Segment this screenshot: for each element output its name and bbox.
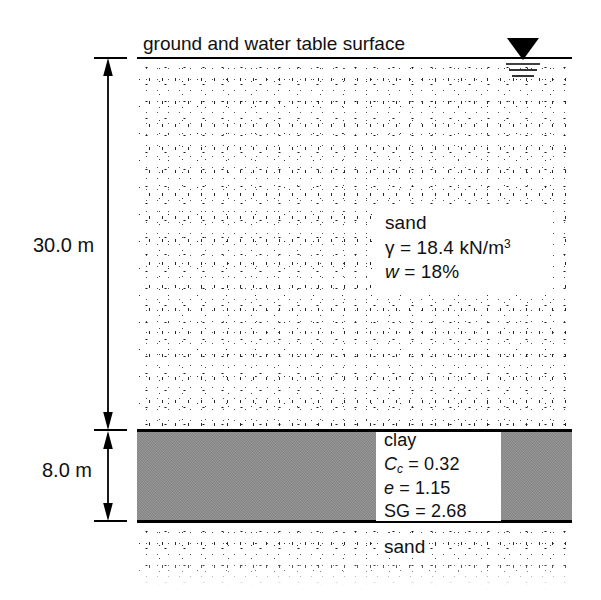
e-equals: = [399,478,410,498]
gamma-value: 18.4 [417,237,454,258]
cc-symbol: C [384,454,397,474]
water-table-triangle-icon [507,38,539,60]
gamma-unit: kN/m [459,237,504,258]
sg-equals: = [415,501,426,521]
upper-sand-property-box: sand γ = 18.4 kN/m3 w = 18% [373,206,553,290]
clay-name: clay [384,429,501,452]
soil-profile-figure: ground and water table surface 30.0 m 8.… [0,0,601,600]
upper-sand-unit-weight: γ = 18.4 kN/m3 [385,236,553,261]
w-symbol: w [385,261,399,282]
clay-void-ratio: e = 1.15 [384,477,501,500]
clay-specific-gravity: SG = 2.68 [384,500,501,523]
upper-sand-water-content: w = 18% [385,260,553,285]
gamma-equals: = [400,237,411,258]
cc-value: 0.32 [424,454,459,474]
clay-property-box: clay Cc = 0.32 e = 1.15 SG = 2.68 [376,432,501,521]
e-value: 1.15 [415,478,450,498]
e-symbol: e [384,478,394,498]
arrowhead-up-clay [103,431,113,449]
gamma-symbol: γ [385,237,395,258]
arrowhead-up-upper [103,58,113,76]
sg-value: 2.68 [431,501,466,521]
water-table-symbol-group [0,0,601,600]
dimension-label-upper-sand: 30.0 m [33,234,94,257]
w-equals: = [404,261,415,282]
upper-sand-name: sand [385,211,553,236]
arrowhead-down-upper [103,412,113,430]
cc-subscript: c [397,461,403,475]
cc-equals: = [408,454,419,474]
sg-symbol: SG [384,501,410,521]
arrowhead-down-clay [103,503,113,521]
clay-compression-index: Cc = 0.32 [384,453,501,477]
w-value: 18% [421,261,459,282]
dimension-label-clay: 8.0 m [42,459,92,482]
lower-sand-label: sand [381,536,428,558]
gamma-unit-exponent: 3 [504,237,511,251]
